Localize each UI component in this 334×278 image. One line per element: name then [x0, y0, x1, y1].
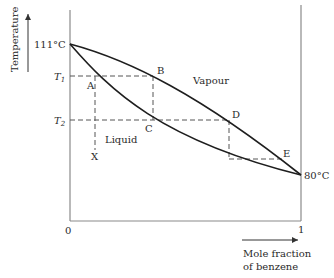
liquid-curve	[70, 44, 301, 175]
point-a-label: A	[86, 80, 95, 91]
vapour-curve	[70, 44, 301, 175]
point-d-label: D	[232, 109, 240, 120]
boiling-point-diagram: Temperature 111°C 80°C T1 T2 A B C D E X…	[0, 0, 334, 278]
point-x-label: X	[91, 151, 99, 162]
point-b-label: B	[157, 65, 164, 76]
t1-label: T1	[54, 71, 65, 84]
t2-label: T2	[54, 115, 66, 128]
vapour-region-label: Vapour	[192, 75, 229, 86]
point-c-label: C	[145, 123, 153, 134]
temp-low-label: 80°C	[304, 170, 330, 181]
point-e-label: E	[283, 148, 290, 159]
x-tick-1: 1	[298, 224, 304, 235]
liquid-region-label: Liquid	[105, 134, 138, 145]
temp-high-label: 111°C	[34, 39, 66, 50]
y-axis-label: Temperature	[9, 6, 20, 72]
x-tick-0: 0	[65, 225, 71, 236]
x-axis-label-line2: of benzene	[243, 261, 298, 272]
x-axis-label-line1: Mole fraction	[243, 248, 312, 259]
